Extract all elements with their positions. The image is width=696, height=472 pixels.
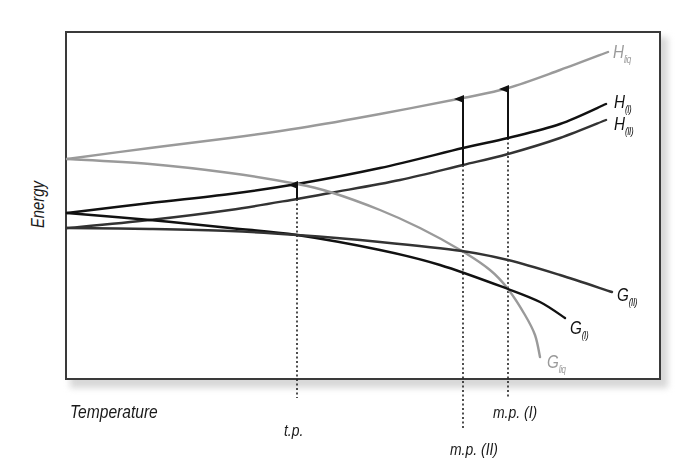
label-g-ii-sub: (II) (629, 297, 637, 308)
label-g-ii-main: G (617, 284, 629, 305)
label-g-i-sub: (I) (582, 330, 588, 341)
mp1-label: m.p. (I) (493, 404, 537, 421)
label-g-liq: Gliq (547, 352, 566, 375)
label-h-ii-main: H (614, 113, 625, 134)
label-g-liq-main: G (547, 351, 559, 372)
label-g-ii: G(II) (617, 285, 637, 308)
curve-g-liq (67, 159, 540, 357)
label-h-liq-main: H (613, 41, 624, 62)
label-h-liq-sub: liq (624, 54, 631, 65)
label-g-i: G(I) (570, 318, 588, 341)
label-g-liq-sub: liq (559, 364, 566, 375)
curve-h-i- (67, 104, 606, 213)
marker-guides (297, 138, 508, 430)
curve-g-ii- (67, 228, 612, 292)
label-h-i: H(I) (614, 92, 631, 115)
label-h-ii-sub: (II) (625, 126, 633, 137)
curve-h-liq (67, 52, 608, 159)
label-h-liq: Hliq (613, 42, 631, 65)
curve-h-ii- (67, 120, 606, 228)
mp2-label: m.p. (II) (450, 441, 498, 458)
label-g-i-main: G (570, 317, 582, 338)
label-h-ii: H(II) (614, 114, 633, 137)
curves (67, 52, 612, 357)
label-h-i-main: H (614, 91, 625, 112)
tp-label: t.p. (284, 422, 303, 439)
x-axis-label: Temperature (70, 402, 158, 421)
y-axis-label: Energy (28, 181, 49, 228)
